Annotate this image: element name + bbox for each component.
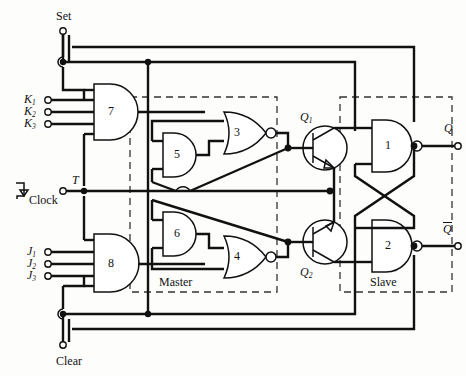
set-terminal[interactable]: [60, 28, 66, 34]
gate-2-label: 2: [385, 239, 391, 251]
junction-set: [60, 59, 66, 65]
j-input-leads: [45, 249, 94, 279]
qbar-output-terminal[interactable]: [455, 243, 461, 249]
gate-1-label: 1: [385, 139, 391, 151]
label-set: Set: [56, 10, 71, 22]
schematic-canvas: .w { stroke:#111; fill:none; stroke-widt…: [0, 0, 466, 376]
gate-8-label: 8: [108, 257, 114, 269]
junction-clock-transistors: [327, 188, 334, 195]
section-label-master: Master: [159, 276, 192, 288]
transistor-q2-label: Q2: [300, 266, 312, 280]
clear-to-gate8: [63, 276, 84, 286]
q-output-terminal[interactable]: [455, 143, 461, 149]
gate-4-label: 4: [234, 250, 240, 262]
junction-clear: [60, 311, 66, 317]
j3-terminal[interactable]: [45, 273, 51, 279]
transistor-q1-label: Q1: [300, 111, 312, 125]
label-qbar-output: Q: [443, 222, 452, 236]
k-input-leads: [45, 97, 94, 127]
label-clear: Clear: [56, 355, 82, 367]
label-q-output: Q: [444, 122, 453, 134]
j2-terminal[interactable]: [45, 261, 51, 267]
k1-terminal[interactable]: [45, 97, 51, 103]
label-j3: J3: [27, 269, 36, 283]
junction-clock: [81, 188, 87, 194]
clear-terminal[interactable]: [60, 342, 66, 348]
junction-q-out: [411, 143, 418, 150]
gate-3-label: 3: [234, 126, 240, 138]
junction-qbar-out: [411, 243, 418, 250]
k2-terminal[interactable]: [45, 109, 51, 115]
clock-terminal[interactable]: [60, 188, 66, 194]
gate-7-label: 7: [108, 105, 114, 117]
label-clock-t: T: [72, 174, 79, 186]
label-clock: Clock: [29, 194, 58, 206]
transistor-q2[interactable]: [288, 191, 347, 264]
gate-5-label: 5: [174, 148, 180, 160]
transistor-q1[interactable]: [288, 126, 347, 191]
section-label-slave: Slave: [370, 276, 397, 288]
j1-terminal[interactable]: [45, 249, 51, 255]
gate-6-label: 6: [174, 227, 180, 239]
label-k3: K3: [24, 117, 36, 131]
circuit-schematic-svg: .w { stroke:#111; fill:none; stroke-widt…: [0, 0, 466, 376]
set-lead-to-gate7: [63, 67, 84, 100]
gate-5[interactable]: [152, 133, 224, 177]
k3-terminal[interactable]: [45, 121, 51, 127]
